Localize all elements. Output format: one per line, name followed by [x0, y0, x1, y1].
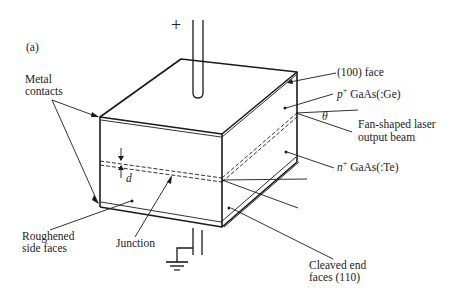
bottom-electrode-ground [166, 228, 202, 270]
top-electrode-wire [193, 20, 203, 98]
d-label: d [126, 172, 132, 184]
junction-line-side-1 [222, 113, 297, 178]
junction-leader [135, 177, 171, 237]
top-contact-strip [101, 120, 221, 137]
cleaved-leader [231, 208, 333, 259]
face-100-label: (100) face [337, 66, 384, 79]
beam-label-2: output beam [358, 131, 415, 144]
junction-label: Junction [116, 237, 155, 249]
beam-label-1: Fan-shaped laser [358, 118, 436, 131]
metal-contacts-label-2: contacts [25, 85, 63, 97]
p-layer-leader [286, 94, 333, 108]
roughened-leader [50, 201, 131, 230]
metal-contacts-label-1: Metal [25, 73, 52, 85]
plus-terminal-label: + [171, 15, 181, 35]
roughened-label-2: side faces [22, 242, 68, 254]
cleaved-label-2: faces (110) [309, 271, 360, 284]
thickness-d-marker: d [118, 148, 132, 184]
theta-label: θ [322, 110, 328, 122]
bottom-contact-strip-side [221, 157, 296, 222]
junction-line-front-2 [100, 165, 222, 182]
p-layer-label: p+ GaAs(:Ge) [336, 86, 401, 101]
cleaved-label-1: Cleaved end [309, 259, 366, 271]
top-contact-strip-side [222, 75, 296, 137]
junction-laser-diagram: (a) + [0, 0, 455, 296]
laser-beam-rays [222, 110, 358, 208]
metal-contacts-leader-bottom [52, 100, 98, 203]
top-face-100 [100, 59, 297, 134]
n-layer-label: n+ GaAs(:Te) [337, 159, 399, 174]
panel-label: (a) [26, 41, 39, 54]
